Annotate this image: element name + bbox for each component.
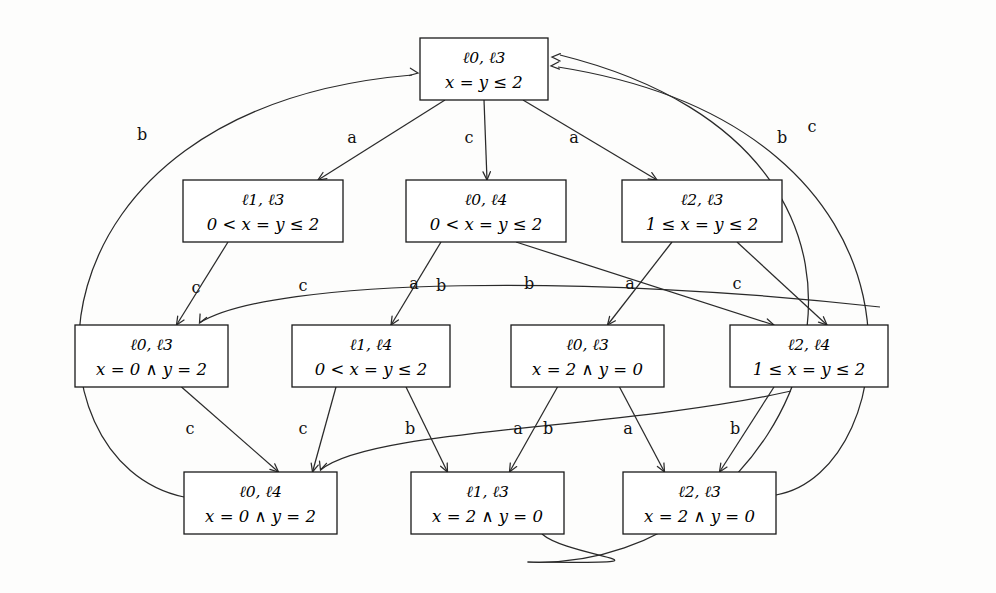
state-node-locations: ℓ1, ℓ3 [242,191,285,209]
edge-label: a [513,419,523,438]
state-node-locations: ℓ2, ℓ3 [678,483,721,501]
state-node[interactable]: ℓ0, ℓ4x = 0 ∧ y = 2 [184,472,337,534]
state-node[interactable]: ℓ1, ℓ3x = 2 ∧ y = 0 [411,472,564,534]
edge-label: c [733,274,742,293]
transition-edge [321,391,792,470]
state-node-constraint: 1 ≤ x = y ≤ 2 [753,360,866,379]
state-node-constraint: x = 0 ∧ y = 2 [96,360,207,379]
edge-label: c [186,419,195,438]
state-node[interactable]: ℓ2, ℓ3x = 2 ∧ y = 0 [623,472,776,534]
arrowhead [391,316,398,325]
state-node[interactable]: ℓ1, ℓ30 < x = y ≤ 2 [183,180,343,242]
arrowhead [200,314,207,323]
arrowhead [510,463,517,472]
state-node[interactable]: ℓ0, ℓ3x = 0 ∧ y = 2 [75,325,228,387]
state-node-locations: ℓ0, ℓ4 [239,483,282,501]
arrowhead [720,463,728,472]
state-node-locations: ℓ1, ℓ3 [466,483,509,501]
state-node[interactable]: ℓ1, ℓ40 < x = y ≤ 2 [292,325,450,387]
edge-label: a [623,419,633,438]
arrowhead [648,173,657,180]
transition-edge [313,387,337,472]
arrowhead [318,173,327,181]
edge-label: c [465,128,474,147]
transition-edge [558,67,869,495]
edge-label: a [625,274,635,293]
arrowhead [177,316,185,325]
state-node[interactable]: ℓ0, ℓ3x = y ≤ 2 [420,38,548,100]
state-node-constraint: x = y ≤ 2 [445,73,523,92]
state-node-locations: ℓ0, ℓ3 [463,49,506,67]
edge-label: a [569,128,579,147]
state-node-locations: ℓ2, ℓ3 [681,191,724,209]
arrowhead [409,68,418,75]
state-node-constraint: x = 2 ∧ y = 0 [532,360,643,379]
state-node-constraint: x = 0 ∧ y = 2 [205,507,316,526]
state-node-constraint: x = 2 ∧ y = 0 [644,507,755,526]
transition-edge [484,100,487,180]
transition-edge [523,100,657,180]
edge-label: b [436,276,446,295]
edge-label: b [524,274,534,293]
state-node[interactable]: ℓ0, ℓ3x = 2 ∧ y = 0 [511,325,664,387]
state-node-constraint: 0 < x = y ≤ 2 [430,215,543,234]
state-node-locations: ℓ0, ℓ3 [130,336,173,354]
transition-edge [79,75,412,497]
state-node-locations: ℓ1, ℓ4 [350,336,393,354]
state-node-constraint: x = 2 ∧ y = 0 [432,507,543,526]
edge-label: c [299,276,308,295]
arrowhead [551,62,560,69]
edge-label: c [808,117,817,136]
transition-graph: bacabcccabbacccbabab ℓ0, ℓ3x = y ≤ 2ℓ1, … [0,0,996,593]
transition-edge [608,242,673,325]
transition-edge [318,100,445,180]
state-node[interactable]: ℓ0, ℓ40 < x = y ≤ 2 [406,180,566,242]
transition-edge [737,242,827,325]
edge-label: c [192,278,201,297]
edge-label-layer: bacabcccabbacccbabab [137,117,817,438]
edge-label: b [543,419,553,438]
edge-label: b [137,125,147,144]
state-node-locations: ℓ0, ℓ3 [566,336,609,354]
state-node-locations: ℓ0, ℓ4 [465,191,508,209]
arrowhead [552,54,560,61]
edge-label: a [347,128,357,147]
transition-edge [182,387,279,472]
edge-label: a [409,274,419,293]
edge-label: b [777,128,787,147]
edge-label: b [730,419,740,438]
state-node[interactable]: ℓ2, ℓ41 ≤ x = y ≤ 2 [730,325,888,387]
state-node-locations: ℓ2, ℓ4 [788,336,831,354]
diagram-canvas: bacabcccabbacccbabab ℓ0, ℓ3x = y ≤ 2ℓ1, … [0,0,996,593]
edge-label: b [405,419,415,438]
state-node-constraint: 0 < x = y ≤ 2 [315,360,428,379]
transition-edge [528,534,615,562]
edge-label: c [299,419,308,438]
state-node-constraint: 0 < x = y ≤ 2 [207,215,320,234]
state-node-constraint: 1 ≤ x = y ≤ 2 [646,215,759,234]
state-node[interactable]: ℓ2, ℓ31 ≤ x = y ≤ 2 [622,180,782,242]
